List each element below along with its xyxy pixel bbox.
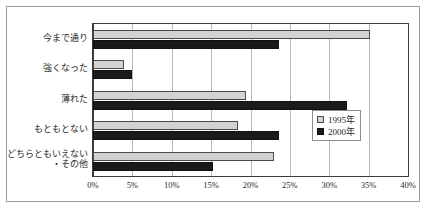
xtick-10: 10% bbox=[164, 180, 180, 190]
chart-legend: 1995年 2000年 bbox=[312, 110, 361, 141]
category-label: 強くなった bbox=[0, 63, 93, 74]
legend-swatch-icon-1995 bbox=[317, 116, 324, 123]
legend-item-2000: 2000年 bbox=[317, 125, 355, 137]
xtick-20: 20% bbox=[243, 180, 259, 190]
bar-2000 bbox=[93, 162, 213, 171]
bar-2000 bbox=[93, 131, 279, 140]
bar-1995 bbox=[93, 121, 238, 130]
chart-row: どちらともいえない ・その他 bbox=[93, 146, 408, 176]
legend-item-1995: 1995年 bbox=[317, 113, 355, 125]
xtick-35: 35% bbox=[361, 180, 377, 190]
xtick-40: 40% bbox=[400, 180, 416, 190]
legend-label: 2000年 bbox=[328, 125, 355, 138]
legend-swatch-icon-2000 bbox=[317, 128, 324, 135]
bar-2000 bbox=[93, 70, 132, 79]
bar-1995 bbox=[93, 91, 246, 100]
chart-row: 今まで通り bbox=[93, 24, 408, 54]
bar-1995 bbox=[93, 30, 370, 39]
category-label: 薄れた bbox=[0, 94, 93, 105]
bar-1995 bbox=[93, 152, 274, 161]
bar-2000 bbox=[93, 101, 347, 110]
chart-row: 強くなった bbox=[93, 54, 408, 84]
xtick-30: 30% bbox=[322, 180, 338, 190]
xtick-0: 0% bbox=[87, 180, 98, 190]
xtick-15: 15% bbox=[203, 180, 219, 190]
category-label: もともとない bbox=[0, 124, 93, 135]
plot-area: 今まで通り 強くなった 薄れた もともとない どちらともいえない ・その他 bbox=[92, 23, 409, 177]
bar-2000 bbox=[93, 40, 279, 49]
bar-1995 bbox=[93, 60, 124, 69]
chart-figure: 今まで通り 強くなった 薄れた もともとない どちらともいえない ・その他 bbox=[6, 6, 420, 202]
category-label: 今まで通り bbox=[0, 33, 93, 44]
category-label: どちらともいえない ・その他 bbox=[0, 149, 93, 170]
xtick-5: 5% bbox=[127, 180, 138, 190]
xtick-25: 25% bbox=[282, 180, 298, 190]
